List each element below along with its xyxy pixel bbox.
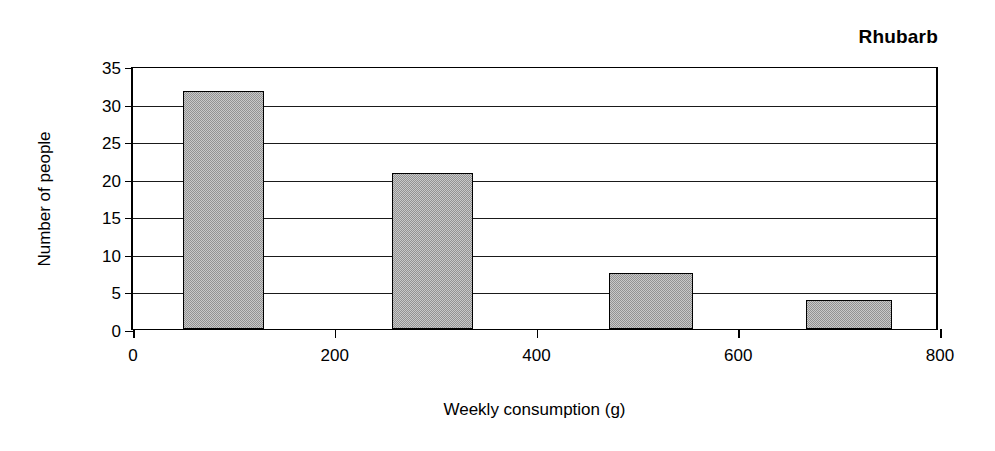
x-axis-tick-label: 600 [724, 347, 752, 364]
bar [183, 91, 264, 329]
y-axis-title: Number of people [33, 67, 57, 330]
y-axis-tick [125, 143, 133, 144]
y-axis-tick [125, 256, 133, 257]
y-axis-tick-label: 25 [102, 135, 121, 152]
x-axis-tick [940, 329, 942, 338]
bar [609, 273, 693, 329]
x-axis-tick-label: 200 [321, 347, 349, 364]
y-axis-title-label: Number of people [35, 131, 55, 266]
chart-title: Rhubarb [0, 26, 938, 48]
y-axis-tick [125, 106, 133, 107]
y-axis-tick [125, 218, 133, 219]
y-axis-tick [125, 68, 133, 69]
x-axis-tick [335, 329, 337, 338]
x-axis-tick-label: 800 [926, 347, 954, 364]
bar-chart: Rhubarb Number of people 05101520253035 … [0, 0, 995, 451]
y-axis-tick-label: 20 [102, 172, 121, 189]
x-axis-tick-label: 400 [522, 347, 550, 364]
y-axis-tick-label: 30 [102, 97, 121, 114]
y-axis-tick [125, 331, 133, 332]
x-axis-tick-label: 0 [128, 347, 137, 364]
y-axis-tick-label: 5 [112, 285, 121, 302]
bar [392, 173, 473, 329]
x-axis-tick [738, 329, 740, 338]
bar [806, 300, 892, 329]
y-axis-tick-label: 10 [102, 247, 121, 264]
y-axis-tick-label: 0 [112, 323, 121, 340]
x-axis-tick [537, 329, 539, 338]
y-axis-tick [125, 293, 133, 294]
x-axis-tick [133, 329, 135, 338]
bars-layer [133, 68, 936, 329]
x-axis-title: Weekly consumption (g) [131, 400, 938, 420]
plot-area: 05101520253035 0200400600800 [131, 67, 938, 330]
y-axis-tick-label: 35 [102, 60, 121, 77]
y-axis-tick [125, 181, 133, 182]
y-axis-tick-label: 15 [102, 210, 121, 227]
